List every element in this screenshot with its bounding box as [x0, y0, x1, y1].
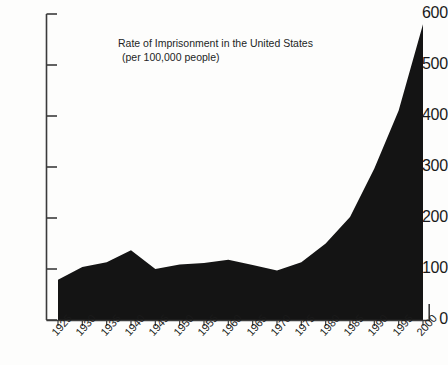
y-axis-tick-label: 100 — [410, 259, 448, 277]
chart-subtitle: (per 100,000 people) — [118, 50, 313, 64]
imprisonment-rate-chart: Rate of Imprisonment in the United State… — [0, 0, 448, 365]
area-series-group — [58, 24, 423, 320]
y-axis-tick-label: 400 — [410, 106, 448, 124]
chart-title-main: Rate of Imprisonment in the United State… — [118, 37, 313, 49]
y-axis-tick-label: 200 — [410, 208, 448, 226]
chart-title: Rate of Imprisonment in the United State… — [118, 36, 313, 64]
y-axis-tick-label: 500 — [410, 55, 448, 73]
area-series-path — [58, 24, 423, 320]
y-axis-ticks — [47, 14, 58, 320]
y-axis-tick-label: 300 — [410, 157, 448, 175]
y-axis-tick-label: 600 — [410, 4, 448, 22]
